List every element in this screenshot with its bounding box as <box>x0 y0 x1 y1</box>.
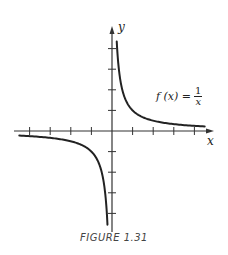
x-axis-label: x <box>207 134 214 148</box>
axes <box>14 26 214 232</box>
y-axis-arrow-icon <box>110 26 115 34</box>
curve-positive-branch <box>117 41 205 126</box>
function-label: f (x) = 1 x <box>156 86 202 107</box>
x-axis-arrow-icon <box>206 129 214 134</box>
function-plot <box>0 0 228 255</box>
fraction-denominator: x <box>195 97 201 107</box>
curve-negative-branch <box>19 136 107 225</box>
function-label-prefix: f (x) = <box>156 90 191 103</box>
fraction: 1 x <box>194 86 202 107</box>
figure-caption: FIGURE 1.31 <box>0 232 228 243</box>
y-axis-label: y <box>118 20 125 34</box>
